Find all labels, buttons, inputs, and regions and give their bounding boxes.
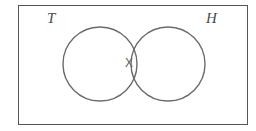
venn-diagram-figure: T H X <box>0 0 256 131</box>
set-label-t: T <box>47 11 55 26</box>
set-label-h: H <box>206 11 217 26</box>
intersection-marker-x: X <box>125 57 133 69</box>
